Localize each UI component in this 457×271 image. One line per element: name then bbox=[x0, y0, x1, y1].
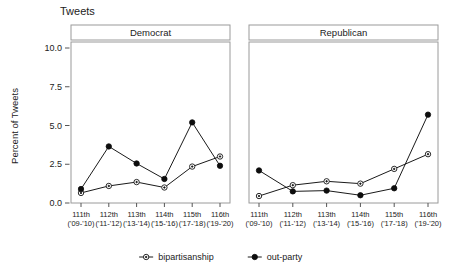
x-tick-sublabel: ('13-'14) bbox=[123, 219, 151, 228]
x-tick-label: 112th bbox=[100, 210, 118, 219]
data-point-center-bipartisanship bbox=[393, 168, 395, 170]
data-point-out-party[interactable] bbox=[190, 120, 195, 125]
y-tick-label: 5.0 bbox=[49, 121, 62, 131]
chart-figure: TweetsPercent of Tweets0.02.55.07.510.0D… bbox=[0, 0, 457, 271]
x-tick-sublabel: ('19-'20) bbox=[414, 219, 442, 228]
legend-label-bipartisanship: bipartisanship bbox=[158, 252, 214, 262]
x-tick-sublabel: ('17-'18) bbox=[179, 219, 207, 228]
x-tick-label: 111th bbox=[250, 210, 268, 219]
data-point-center-bipartisanship bbox=[136, 181, 138, 183]
data-point-out-party[interactable] bbox=[78, 186, 83, 191]
data-point-out-party[interactable] bbox=[358, 193, 363, 198]
x-tick-label: 111th bbox=[72, 210, 90, 219]
data-point-center-bipartisanship bbox=[258, 195, 260, 197]
x-tick-sublabel: ('15-'16) bbox=[347, 219, 375, 228]
x-tick-sublabel: ('15-'16) bbox=[151, 219, 179, 228]
data-point-out-party[interactable] bbox=[217, 163, 222, 168]
tweets-line-chart: TweetsPercent of Tweets0.02.55.07.510.0D… bbox=[0, 0, 457, 271]
data-point-center-bipartisanship bbox=[191, 166, 193, 168]
data-point-out-party[interactable] bbox=[290, 189, 295, 194]
x-tick-label: 116th bbox=[419, 210, 437, 219]
x-tick-sublabel: ('13-'14) bbox=[313, 219, 341, 228]
data-point-center-bipartisanship bbox=[360, 183, 362, 185]
y-tick-label: 10.0 bbox=[44, 43, 62, 53]
data-point-center-bipartisanship bbox=[219, 156, 221, 158]
legend-marker-center-bipartisanship bbox=[145, 256, 147, 258]
x-tick-label: 113th bbox=[127, 210, 145, 219]
x-tick-label: 112th bbox=[284, 210, 302, 219]
data-point-center-bipartisanship bbox=[80, 192, 82, 194]
panel-box-republican bbox=[249, 42, 438, 203]
panel-strip-label-democrat: Democrat bbox=[130, 27, 172, 38]
data-point-center-bipartisanship bbox=[292, 184, 294, 186]
x-tick-label: 114th bbox=[155, 210, 173, 219]
x-tick-label: 116th bbox=[211, 210, 229, 219]
data-point-out-party[interactable] bbox=[392, 186, 397, 191]
y-tick-label: 7.5 bbox=[49, 82, 62, 92]
x-tick-sublabel: ('09-'10) bbox=[245, 219, 273, 228]
chart-title: Tweets bbox=[60, 5, 95, 17]
legend-label-out-party: out-party bbox=[267, 252, 303, 262]
panel-strip-label-republican: Republican bbox=[320, 27, 368, 38]
y-tick-label: 0.0 bbox=[49, 198, 62, 208]
x-tick-sublabel: ('11-'12) bbox=[96, 219, 123, 228]
legend-marker-out-party bbox=[252, 254, 257, 259]
y-tick-label: 2.5 bbox=[49, 159, 62, 169]
y-axis-label: Percent of Tweets bbox=[9, 88, 20, 164]
panel-box-democrat bbox=[71, 42, 230, 203]
x-tick-sublabel: ('17-'18) bbox=[381, 219, 409, 228]
data-point-out-party[interactable] bbox=[106, 144, 111, 149]
x-tick-sublabel: ('19-'20) bbox=[206, 219, 234, 228]
data-point-center-bipartisanship bbox=[164, 187, 166, 189]
x-tick-sublabel: ('11-'12) bbox=[280, 219, 307, 228]
data-point-center-bipartisanship bbox=[427, 153, 429, 155]
x-tick-label: 115th bbox=[385, 210, 403, 219]
x-tick-label: 113th bbox=[317, 210, 335, 219]
x-tick-sublabel: ('09-'10) bbox=[67, 219, 95, 228]
data-point-out-party[interactable] bbox=[324, 188, 329, 193]
x-tick-label: 115th bbox=[183, 210, 201, 219]
data-point-out-party[interactable] bbox=[162, 176, 167, 181]
data-point-center-bipartisanship bbox=[326, 181, 328, 183]
data-point-center-bipartisanship bbox=[108, 185, 110, 187]
data-point-out-party[interactable] bbox=[134, 161, 139, 166]
x-tick-label: 114th bbox=[351, 210, 369, 219]
data-point-out-party[interactable] bbox=[425, 112, 430, 117]
data-point-out-party[interactable] bbox=[256, 168, 261, 173]
